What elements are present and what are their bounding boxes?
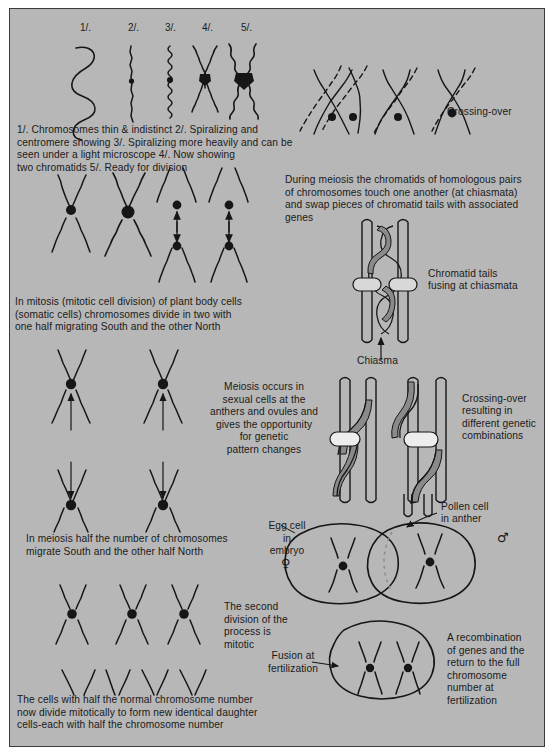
label-fusion-fertilization: Fusion at fertilization <box>256 650 330 675</box>
stage-5-ready-for-division <box>229 44 258 119</box>
caption-recombination: A recombination of genes and the return … <box>447 632 547 708</box>
caption-meiosis-chiasmata: During meiosis the chromatids of homolog… <box>285 174 550 224</box>
label-crossing-over: Crossing-over <box>447 106 512 118</box>
stage-label-5: 5/. <box>241 22 252 33</box>
caption-second-division: The second division of the process is mi… <box>224 601 314 651</box>
male-symbol: ♂ <box>497 530 509 545</box>
meiosis-chromosome-b <box>54 462 88 532</box>
second-division-chromosomes <box>56 585 200 644</box>
stage-label-1: 1/. <box>80 22 91 33</box>
figure-page: 1/. 2/. 3/. 4/. 5/. 1/. Chromosomes thin… <box>0 0 554 755</box>
caption-meiosis-sexual-cells: Meiosis occurs in sexual cells at the an… <box>203 381 325 457</box>
caption-mitosis: In mitosis (mitotic cell division) of pl… <box>15 296 315 334</box>
label-chiasma: Chiasma <box>357 355 398 367</box>
mitosis-chromosome-pair-a <box>52 175 90 252</box>
meiosis-chromosome-a <box>52 350 90 430</box>
egg-cell-chromosome <box>329 538 357 592</box>
caption-stages: 1/. Chromosomes thin & indistinct 2/. Sp… <box>17 124 307 174</box>
stage-label-3: 3/. <box>165 22 176 33</box>
mitosis-separating-pair-c <box>157 168 196 282</box>
label-chromatid-tails: Chromatid tails fusing at chiasmata <box>428 268 548 293</box>
label-pollen-cell: Pollen cell in anther <box>441 501 521 526</box>
stage-4-two-chromatids <box>192 46 218 112</box>
recombinant-chromosome-pair-2 <box>392 378 446 505</box>
stage-label-2: 2/. <box>128 22 139 33</box>
meiosis-chromosome-d <box>146 462 180 532</box>
crossing-over-diagram-3 <box>435 70 470 134</box>
meiosis-chromosome-c <box>144 350 182 430</box>
stage-2-spiralizing-chromosome <box>129 46 134 122</box>
stage-label-4: 4/. <box>202 22 213 33</box>
crossing-over-diagram-1-dashed <box>300 66 367 131</box>
crossing-over-diagram-1 <box>314 70 352 134</box>
label-crossing-over-result: Crossing-over resulting in different gen… <box>462 393 554 443</box>
crossing-over-diagram-1b <box>349 68 361 133</box>
mitosis-chromosome-pair-b <box>105 173 151 256</box>
daughter-cell-chromosomes <box>62 670 206 695</box>
fertilization-cell <box>312 621 434 699</box>
mitosis-separating-pair-d <box>209 168 248 282</box>
recombinant-chromosome-pair-1 <box>330 378 376 503</box>
female-symbol: ♀ <box>281 556 291 571</box>
pollen-cell-chromosome <box>416 534 444 588</box>
stage-3-spiralized-chromosome <box>167 46 173 118</box>
label-egg-cell: Egg cell in embryo <box>258 520 316 558</box>
chiasma-dot-1 <box>349 113 357 121</box>
crossing-over-diagram-3-dashed <box>432 68 475 131</box>
chiasmata-chromosome-group <box>353 220 417 361</box>
caption-daughter-cells: The cells with half the normal chromosom… <box>17 694 322 732</box>
